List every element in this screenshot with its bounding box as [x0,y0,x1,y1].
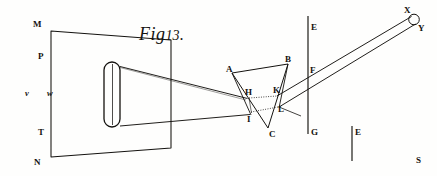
figure-caption-number: 13 [166,28,180,43]
figure-caption-dot: . [180,26,185,43]
screen-board-outline [51,31,171,157]
label-plane-top-e: E [311,23,317,32]
incident-beam-group [120,67,250,127]
screen-board-group [51,31,171,157]
label-prism-vertex-c: C [269,130,276,139]
label-plane-point-f: F [310,66,316,75]
label-slit-top-p: P [38,52,44,61]
slit-aperture-outline [104,62,120,127]
label-prism-vertex-b: B [285,55,291,64]
prism-group [232,64,288,128]
figure-canvas: Fig13. M N P T v w A B C H I K L E F G E… [0,0,437,176]
label-ray-point-i: I [247,115,251,124]
slit-aperture-group [104,62,120,127]
label-image-x: X [404,6,411,15]
figure-caption: Fig13. [139,24,184,45]
optical-diagram-svg [0,0,437,176]
figure-caption-word: Fig [139,24,166,44]
label-ray-point-l: L [278,105,284,114]
label-screen-top-m: M [33,20,42,29]
emergent-ray-upper [277,17,412,97]
label-prism-vertex-a: A [226,65,233,74]
label-marker-s: S [416,156,421,165]
internal-ray-h-to-k [249,96,277,98]
emergent-ray-lower [279,24,416,107]
label-slit-left-v: v [25,89,29,98]
label-slit-bottom-t: T [38,128,44,137]
label-ray-point-k: K [273,86,280,95]
label-slit-right-w: w [47,89,53,98]
label-ray-point-h: H [245,88,252,97]
label-plane-bottom-g: G [311,128,318,137]
prism-edge-b-to-l [279,64,288,108]
label-image-y: Y [418,24,425,33]
incident-ray-lower [120,115,250,127]
emergent-beam-group [277,17,416,117]
label-plane-secondary-e: E [355,128,361,137]
label-screen-bottom-n: N [34,158,41,167]
prism-triangle [232,64,288,128]
